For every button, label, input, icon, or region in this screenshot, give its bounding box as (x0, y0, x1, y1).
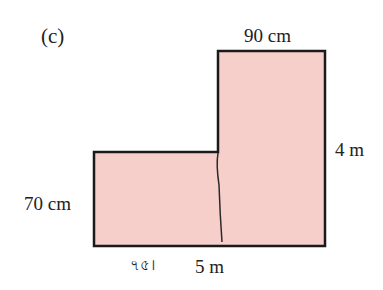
l-shape (94, 51, 325, 246)
l-shape-diagram (0, 0, 383, 290)
